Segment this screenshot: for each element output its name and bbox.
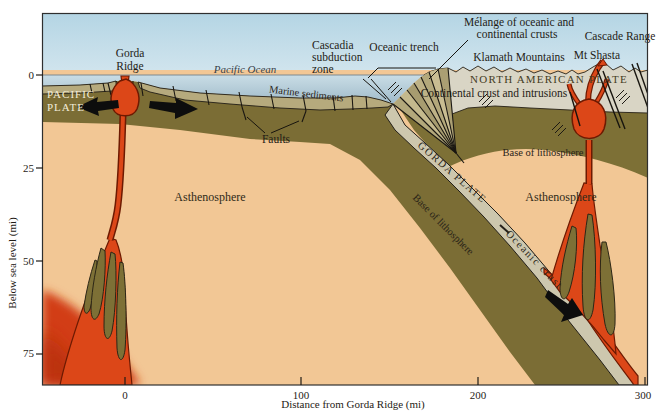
x-tick-300: 300	[635, 389, 652, 401]
y-tick-25: 25	[23, 162, 35, 174]
y-axis-title: Below sea level (mi)	[6, 217, 19, 309]
pacific-plate-label-line2: PLATE	[47, 101, 85, 113]
gorda-ridge-label-line2: Ridge	[116, 60, 143, 73]
asthenosphere-right-label: Asthenosphere	[525, 190, 596, 204]
gorda-ridge-label-line1: Gorda	[116, 47, 145, 59]
oceanic-trench-label: Oceanic trench	[369, 41, 439, 53]
north-american-plate-label: NORTH AMERICAN PLATE	[470, 73, 628, 85]
cascade-range-label: Cascade Range	[585, 30, 656, 43]
mt-shasta-label: Mt Shasta	[574, 49, 620, 61]
pacific-ocean-label: Pacific Ocean	[213, 63, 277, 75]
cascadia-label-line1: Cascadia	[312, 39, 354, 51]
klamath-mountains-label: Klamath Mountains	[473, 51, 565, 63]
cross-section-svg: Gorda Ridge Pacific Ocean Cascadia subdu…	[0, 0, 672, 411]
y-tick-50: 50	[23, 255, 35, 267]
asthenosphere-left-label: Asthenosphere	[174, 190, 245, 204]
x-axis-title: Distance from Gorda Ridge (mi)	[281, 398, 425, 411]
continental-crust-label: Continental crust and intrusions	[421, 87, 568, 99]
cascadia-label-line2: subduction	[312, 51, 363, 63]
pacific-plate-label-line1: PACIFIC	[47, 88, 95, 100]
cross-section-figure: Gorda Ridge Pacific Ocean Cascadia subdu…	[0, 0, 672, 411]
y-tick-0: 0	[29, 69, 35, 81]
x-tick-0: 0	[122, 389, 128, 401]
faults-label: Faults	[262, 133, 291, 145]
y-tick-75: 75	[23, 347, 35, 359]
cascadia-label-line3: zone	[312, 63, 334, 75]
melange-label-line2: continental crusts	[477, 28, 558, 40]
x-tick-200: 200	[470, 389, 487, 401]
base-of-lithosphere-right-label: Base of lithosphere	[502, 147, 583, 158]
